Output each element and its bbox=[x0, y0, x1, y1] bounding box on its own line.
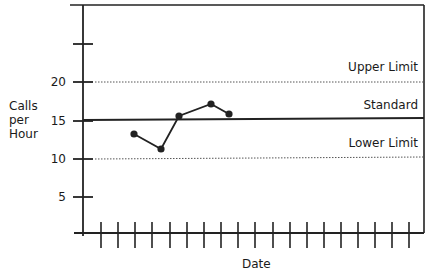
y-tick-label-20: 20 bbox=[36, 75, 66, 89]
data-point bbox=[130, 130, 137, 137]
standard-line bbox=[83, 118, 424, 120]
standard-label: Standard bbox=[298, 98, 418, 112]
data-point bbox=[157, 145, 164, 152]
data-point bbox=[225, 110, 232, 117]
y-tick-label-10: 10 bbox=[36, 152, 66, 166]
y-tick-label-15: 15 bbox=[36, 114, 66, 128]
lower-limit-label: Lower Limit bbox=[298, 136, 418, 150]
data-point bbox=[175, 112, 182, 119]
data-point bbox=[207, 100, 214, 107]
y-axis-label-line1: Calls bbox=[9, 99, 38, 113]
data-series-line bbox=[134, 104, 229, 149]
y-tick-label-5: 5 bbox=[36, 190, 66, 204]
upper-limit-label: Upper Limit bbox=[298, 60, 418, 74]
x-ticks bbox=[101, 222, 409, 248]
y-axis-label-line3: Hour bbox=[9, 127, 38, 141]
lower-limit-line bbox=[95, 157, 424, 159]
y-axis-label-line2: per bbox=[9, 113, 29, 127]
x-axis-label: Date bbox=[242, 257, 271, 271]
